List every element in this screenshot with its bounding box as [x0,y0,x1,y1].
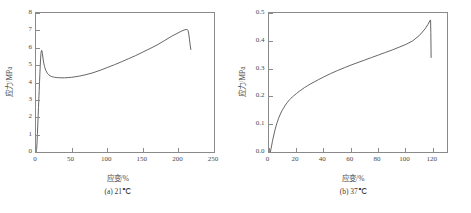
x-axis-title-a: 应变/% [0,172,236,183]
y-tick-mark [269,13,273,14]
y-tick-mark [36,83,40,84]
x-tick-mark [36,148,37,152]
x-tick-label: 200 [172,156,183,163]
x-tick-label: 20 [291,156,298,163]
y-tick-mark [269,41,273,42]
y-tick-mark [36,65,40,66]
x-tick-mark [378,148,379,152]
y-tick-mark [36,117,40,118]
plot-area-b [268,12,448,153]
y-tick-mark [269,96,273,97]
y-tick-label: 0.3 [243,64,265,71]
x-tick-mark [107,148,108,152]
y-tick-mark [36,48,40,49]
x-tick-mark [405,148,406,152]
figure-container: 应力/MPa 应变/% (a) 21℃ 01234567805010015020… [0,0,471,213]
x-tick-label: 100 [399,156,410,163]
y-tick-label: 6 [10,43,32,50]
y-tick-label: 4 [10,78,32,85]
y-tick-mark [36,13,40,14]
stress-strain-curve-a [37,30,191,149]
y-tick-mark [269,124,273,125]
x-tick-label: 250 [208,156,219,163]
curve-svg-a [36,13,214,152]
chart-panel-a: 应力/MPa 应变/% (a) 21℃ 01234567805010015020… [0,0,236,213]
stress-strain-curve-b [270,20,431,152]
x-tick-mark [323,148,324,152]
x-tick-mark [433,148,434,152]
y-tick-mark [269,69,273,70]
x-tick-mark [143,148,144,152]
y-tick-label: 3 [10,95,32,102]
panel-caption-a: (a) 21℃ [0,187,236,196]
y-tick-label: 5 [10,61,32,68]
x-tick-label: 150 [137,156,148,163]
y-tick-label: 7 [10,26,32,33]
plot-area-a [35,12,215,153]
x-tick-label: 0 [33,156,37,163]
curve-svg-b [269,13,447,152]
y-tick-label: 0.5 [243,9,265,16]
x-tick-label: 100 [101,156,112,163]
y-tick-label: 1 [10,130,32,137]
y-tick-label: 0.2 [243,92,265,99]
x-tick-label: 80 [374,156,381,163]
x-tick-label: 40 [319,156,326,163]
y-tick-label: 0.4 [243,36,265,43]
x-tick-mark [214,148,215,152]
x-tick-mark [72,148,73,152]
y-tick-mark [36,152,40,153]
y-tick-label: 8 [10,9,32,16]
x-tick-mark [351,148,352,152]
panel-caption-b: (b) 37℃ [236,187,471,196]
x-tick-mark [178,148,179,152]
x-tick-label: 60 [346,156,353,163]
x-tick-label: 0 [266,156,270,163]
y-tick-mark [36,100,40,101]
y-tick-label: 0.1 [243,120,265,127]
y-tick-label: 0.0 [243,148,265,155]
x-tick-label: 50 [67,156,74,163]
x-tick-label: 120 [427,156,438,163]
y-tick-label: 0 [10,148,32,155]
y-tick-label: 2 [10,113,32,120]
chart-panel-b: 应力/MPa 应变/% (b) 37℃ 0.00.10.20.30.40.502… [236,0,471,213]
y-tick-mark [269,152,273,153]
y-tick-mark [36,30,40,31]
y-tick-mark [36,135,40,136]
x-tick-mark [296,148,297,152]
x-axis-title-b: 应变/% [236,172,471,183]
x-tick-mark [269,148,270,152]
